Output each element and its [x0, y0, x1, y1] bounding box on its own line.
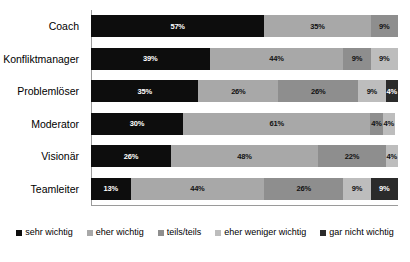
bar-rows: 57%35%9%39%44%9%9%35%26%26%9%4%30%61%4%4…	[91, 10, 398, 205]
bar-segment[interactable]: 22%	[318, 145, 386, 167]
bar-segment[interactable]: 26%	[278, 80, 358, 102]
bar-segment[interactable]: 9%	[371, 178, 398, 200]
legend-item[interactable]: eher wichtig	[87, 228, 144, 237]
bar-segment[interactable]: 35%	[264, 15, 370, 37]
category-label: Konfliktmanager	[0, 48, 85, 70]
bar-segment[interactable]: 44%	[210, 48, 344, 70]
legend-swatch-icon	[320, 230, 326, 236]
legend-label: eher wichtig	[96, 228, 144, 237]
bar-segment-value: 9%	[379, 55, 389, 63]
bar-segment-value: 44%	[190, 185, 204, 193]
legend-item[interactable]: teils/teils	[158, 228, 202, 237]
bar-row: 35%26%26%9%4%	[91, 80, 398, 102]
bar-segment-value: 26%	[231, 88, 245, 96]
bar-segment-value: 9%	[379, 185, 389, 193]
legend-item[interactable]: gar nicht wichtig	[320, 228, 394, 237]
legend-swatch-icon	[158, 230, 164, 236]
bar-segment-value: 26%	[124, 153, 138, 161]
bar-segment-value: 13%	[104, 185, 118, 193]
bar-segment-value: 44%	[269, 55, 283, 63]
category-axis-labels: CoachKonfliktmanagerProblemlöserModerato…	[0, 10, 85, 205]
bar-row: 13%44%26%9%9%	[91, 178, 398, 200]
bar-segment[interactable]: 9%	[343, 48, 370, 70]
category-label: Teamleiter	[0, 178, 85, 200]
bar-segment-value: 4%	[387, 88, 397, 96]
stacked-bar: 39%44%9%9%	[91, 48, 398, 70]
category-label: Problemlöser	[0, 80, 85, 102]
bar-segment-value: 9%	[352, 185, 362, 193]
bar-row: 26%48%22%4%	[91, 145, 398, 167]
bar-segment-value: 48%	[237, 153, 251, 161]
legend-label: sehr wichtig	[25, 228, 73, 237]
stacked-bar: 26%48%22%4%	[91, 145, 398, 167]
bar-segment-value: 9%	[352, 55, 362, 63]
legend-label: gar nicht wichtig	[329, 228, 394, 237]
bar-segment-value: 26%	[311, 88, 325, 96]
bar-segment[interactable]: 4%	[383, 113, 395, 135]
bar-segment[interactable]: 9%	[371, 15, 398, 37]
bar-segment[interactable]: 13%	[91, 178, 131, 200]
bar-segment[interactable]: 57%	[91, 15, 264, 37]
legend-swatch-icon	[87, 230, 93, 236]
stacked-bar-chart: CoachKonfliktmanagerProblemlöserModerato…	[0, 0, 410, 262]
bar-segment-value: 22%	[345, 153, 359, 161]
bar-segment[interactable]: 26%	[91, 145, 171, 167]
legend-label: eher weniger wichtig	[224, 228, 306, 237]
stacked-bar: 13%44%26%9%9%	[91, 178, 398, 200]
bar-segment[interactable]: 26%	[264, 178, 343, 200]
bar-segment-value: 57%	[170, 23, 184, 31]
bar-segment-value: 4%	[387, 153, 397, 161]
bar-segment-value: 4%	[371, 120, 381, 128]
chart-legend: sehr wichtigeher wichtigteils/teilseher …	[0, 228, 410, 237]
bar-segment-value: 30%	[130, 120, 144, 128]
bar-segment-value: 9%	[379, 23, 389, 31]
bar-row: 30%61%4%4%	[91, 113, 398, 135]
bar-segment[interactable]: 4%	[386, 145, 398, 167]
stacked-bar: 57%35%9%	[91, 15, 398, 37]
legend-label: teils/teils	[167, 228, 202, 237]
bar-segment[interactable]: 4%	[386, 80, 398, 102]
bar-segment[interactable]: 9%	[371, 48, 398, 70]
bar-row: 39%44%9%9%	[91, 48, 398, 70]
bar-segment-value: 61%	[270, 120, 284, 128]
bar-segment-value: 35%	[138, 88, 152, 96]
bar-segment[interactable]: 26%	[198, 80, 278, 102]
bar-segment[interactable]: 48%	[171, 145, 318, 167]
bar-segment-value: 9%	[367, 88, 377, 96]
category-label: Coach	[0, 15, 85, 37]
legend-item[interactable]: sehr wichtig	[16, 228, 73, 237]
bar-segment[interactable]: 39%	[91, 48, 210, 70]
stacked-bar: 30%61%4%4%	[91, 113, 398, 135]
bar-segment-value: 26%	[297, 185, 311, 193]
bar-row: 57%35%9%	[91, 15, 398, 37]
category-label: Visionär	[0, 145, 85, 167]
bar-segment-value: 39%	[143, 55, 157, 63]
bar-segment[interactable]: 4%	[370, 113, 382, 135]
bar-segment[interactable]: 61%	[183, 113, 370, 135]
bar-segment-value: 4%	[384, 120, 394, 128]
bar-segment[interactable]: 9%	[343, 178, 370, 200]
category-label: Moderator	[0, 113, 85, 135]
bar-segment[interactable]: 30%	[91, 113, 183, 135]
legend-item[interactable]: eher weniger wichtig	[215, 228, 306, 237]
legend-swatch-icon	[215, 230, 221, 236]
bar-segment-value: 35%	[310, 23, 324, 31]
bar-segment[interactable]: 9%	[358, 80, 386, 102]
bar-segment[interactable]: 35%	[91, 80, 198, 102]
legend-swatch-icon	[16, 230, 22, 236]
bar-segment[interactable]: 44%	[131, 178, 265, 200]
stacked-bar: 35%26%26%9%4%	[91, 80, 398, 102]
